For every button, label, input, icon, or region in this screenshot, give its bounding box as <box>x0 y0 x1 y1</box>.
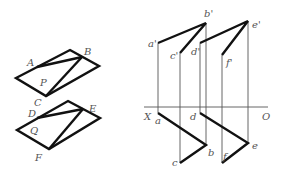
label-d-prime: d' <box>191 46 200 57</box>
top-view: a b c d e f <box>155 111 258 168</box>
label-A: A <box>26 57 34 68</box>
label-d: d <box>190 111 196 122</box>
label-E: E <box>88 103 97 114</box>
label-X: X <box>143 111 152 122</box>
label-a-prime: a' <box>148 38 157 49</box>
label-F: F <box>34 152 43 163</box>
top-abc <box>158 113 206 163</box>
label-D: D <box>27 108 36 119</box>
label-c: c <box>172 157 178 168</box>
label-C: C <box>34 97 42 108</box>
geometry-figure: A B P C D E Q F X O a' b' c' d' e' f' <box>0 0 282 178</box>
label-f-prime: f' <box>225 57 232 68</box>
label-P: P <box>39 77 47 88</box>
front-view: a' b' c' d' e' f' <box>148 8 261 68</box>
plane-def: D E Q F <box>17 101 100 163</box>
label-f: f <box>222 151 229 162</box>
label-e: e <box>252 140 258 151</box>
label-B: B <box>83 46 91 57</box>
label-e-prime: e' <box>252 19 261 30</box>
label-Q: Q <box>30 125 38 136</box>
front-def <box>200 21 248 55</box>
label-c-prime: c' <box>170 50 178 61</box>
label-a: a <box>155 115 161 126</box>
plane-abc: A B P C <box>16 46 99 108</box>
label-O: O <box>262 111 270 122</box>
label-b: b <box>208 147 214 158</box>
label-b-prime: b' <box>204 8 213 19</box>
